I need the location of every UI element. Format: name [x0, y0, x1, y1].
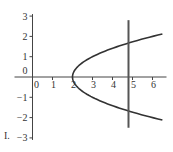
- x-tick-label: 1: [51, 79, 56, 90]
- y-tick-label: −3: [17, 132, 28, 143]
- chart: 01234563210−1−2−3: [0, 0, 173, 152]
- x-tick-label: 6: [151, 79, 156, 90]
- y-tick-label: −2: [17, 112, 28, 123]
- figure-label: I.: [4, 130, 10, 141]
- x-tick-label: 5: [131, 79, 136, 90]
- y-tick-label: −1: [17, 92, 28, 103]
- x-tick-label: 3: [91, 79, 96, 90]
- x-tick-label: 0: [34, 79, 39, 90]
- y-tick-label: 1: [23, 51, 28, 62]
- x-tick-label: 4: [111, 79, 116, 90]
- y-tick-label: 0: [23, 65, 28, 76]
- marks: [73, 20, 163, 128]
- axes: [15, 14, 167, 140]
- y-tick-label: 3: [23, 11, 28, 22]
- y-tick-label: 2: [23, 31, 28, 42]
